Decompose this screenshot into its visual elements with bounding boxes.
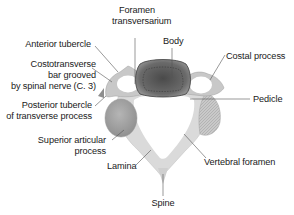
- label-vertebral-foramen: Vertebral foramen: [204, 157, 275, 168]
- leader-costal-process: [210, 55, 225, 80]
- label-superior-line2: process: [18, 146, 106, 157]
- label-costal-process: Costal process: [226, 51, 285, 62]
- label-posterior-tubercle: Posterior tubercle of transverse process: [4, 100, 92, 122]
- label-costotransverse-bar: Costotransverse bar grooved by spinal ne…: [4, 59, 96, 91]
- label-foramen-line1: Foramen: [112, 5, 162, 16]
- label-costotransverse-line3: by spinal nerve (C. 3): [4, 81, 96, 92]
- label-anterior-tubercle: Anterior tubercle: [18, 39, 91, 50]
- label-pedicle: Pedicle: [253, 94, 282, 105]
- label-superior-articular-process: Superior articular process: [18, 135, 106, 157]
- foramen-transversarium-right: [190, 77, 212, 94]
- label-costotransverse-line2: bar grooved: [4, 70, 96, 81]
- leader-anterior-tubercle: [95, 46, 118, 72]
- label-foramen-transversarium: Foramen transversarium: [112, 5, 162, 27]
- label-posterior-line2: of transverse process: [4, 111, 92, 122]
- vertebral-body: [136, 60, 191, 98]
- label-costotransverse-line1: Costotransverse: [4, 59, 96, 70]
- superior-articular-process-left: [105, 99, 137, 137]
- leader-posterior-tubercle: [95, 96, 106, 106]
- label-superior-line1: Superior articular: [18, 135, 106, 146]
- label-posterior-line1: Posterior tubercle: [4, 100, 92, 111]
- label-foramen-line2: transversarium: [112, 16, 162, 27]
- label-spine: Spine: [146, 198, 180, 209]
- label-lamina: Lamina: [107, 161, 137, 172]
- vertebra-diagram: Foramen transversarium Body Anterior tub…: [0, 0, 294, 215]
- label-body: Body: [163, 36, 184, 47]
